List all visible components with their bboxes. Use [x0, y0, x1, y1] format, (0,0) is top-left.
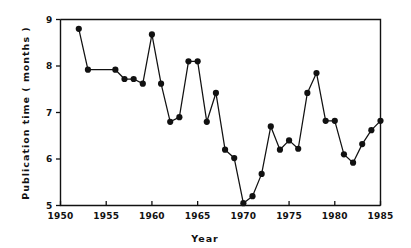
data-point [350, 160, 356, 166]
y-tick-label: 9 [46, 15, 52, 25]
data-point [377, 118, 383, 124]
data-point [259, 171, 265, 177]
data-point [112, 67, 118, 73]
data-point [213, 90, 219, 96]
x-tick-label: 1960 [139, 211, 165, 221]
data-point [313, 70, 319, 76]
y-tick-label: 7 [46, 108, 52, 118]
data-point [176, 114, 182, 120]
y-tick-label: 5 [46, 201, 52, 211]
x-tick-label: 1985 [368, 211, 394, 221]
data-point [295, 146, 301, 152]
x-axis-label: Year [190, 233, 219, 244]
x-tick-label: 1970 [230, 211, 256, 221]
data-point [240, 200, 246, 206]
x-tick-label: 1975 [276, 211, 302, 221]
data-point [341, 151, 347, 157]
data-point [140, 81, 146, 87]
y-axis-label: Publication time ( months ) [20, 26, 31, 199]
y-tick-label: 6 [46, 154, 52, 164]
data-point [268, 123, 274, 129]
data-point [185, 58, 191, 64]
data-point [195, 58, 201, 64]
data-point [167, 119, 173, 125]
x-tick-label: 1965 [185, 211, 211, 221]
data-point [368, 127, 374, 133]
x-tick-label: 1980 [322, 211, 348, 221]
data-point [222, 147, 228, 153]
data-point [76, 26, 82, 32]
data-point [332, 118, 338, 124]
x-tick-label: 1950 [48, 211, 74, 221]
x-tick-label: 1955 [93, 211, 119, 221]
chart-figure: 56789 19501955196019651970197519801985 Y… [0, 0, 411, 248]
data-point [249, 193, 255, 199]
data-point [304, 90, 310, 96]
data-point [323, 118, 329, 124]
data-point [158, 81, 164, 87]
data-point [231, 155, 237, 161]
data-point [277, 147, 283, 153]
data-point [131, 76, 137, 82]
data-point [286, 137, 292, 143]
data-point [359, 141, 365, 147]
data-point [121, 76, 127, 82]
publication-time-line-chart: 56789 19501955196019651970197519801985 Y… [0, 0, 411, 248]
data-point [149, 31, 155, 37]
data-point [204, 119, 210, 125]
data-point [85, 67, 91, 73]
y-tick-label: 8 [46, 61, 52, 71]
